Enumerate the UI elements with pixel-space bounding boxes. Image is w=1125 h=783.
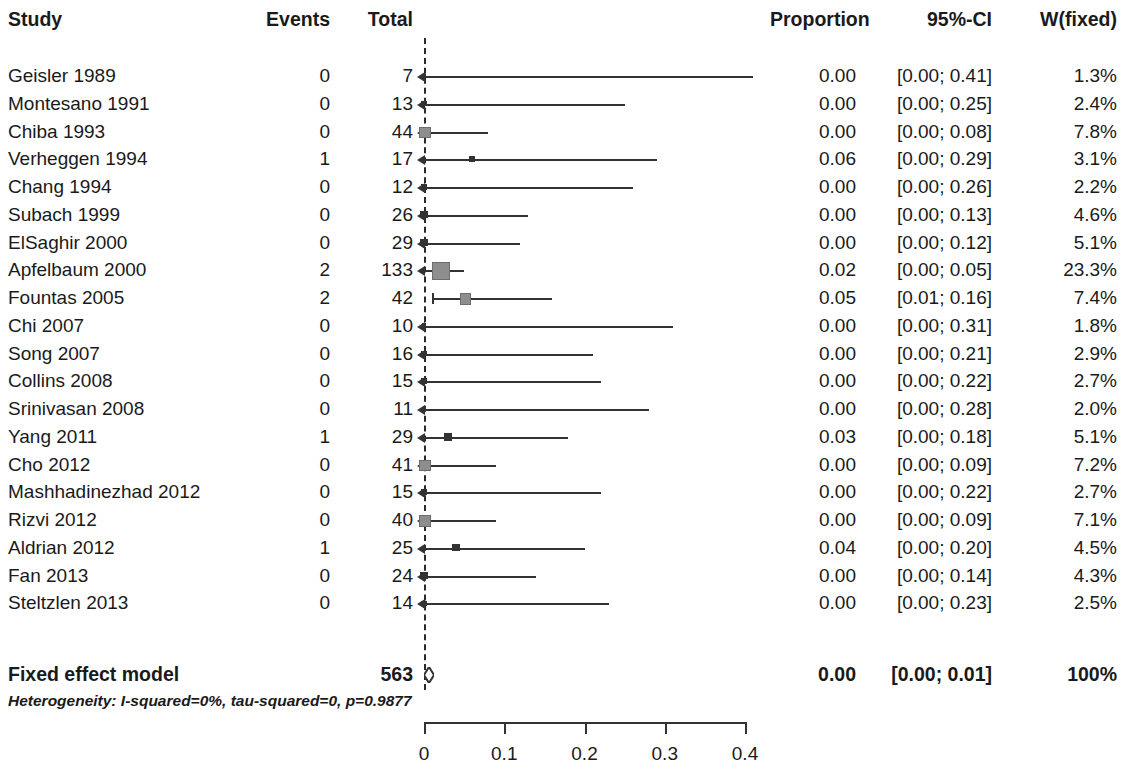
- row-study-name: Montesano 1991: [8, 94, 288, 113]
- point-estimate-marker: [421, 489, 427, 495]
- row-total: 24: [330, 566, 413, 585]
- row-study-name: Cho 2012: [8, 455, 288, 474]
- row-weight: 1.8%: [996, 316, 1117, 335]
- row-weight: 4.6%: [996, 205, 1117, 224]
- summary-proportion: 0.00: [770, 665, 856, 684]
- x-axis-tick: [585, 722, 587, 734]
- ci-left-arrow: [417, 322, 425, 332]
- column-header-events: Events: [250, 10, 330, 29]
- point-estimate-marker: [422, 74, 426, 78]
- ci-left-arrow: [417, 405, 425, 415]
- column-header-total: Total: [330, 10, 413, 29]
- row-ci: [0.00; 0.05]: [862, 260, 992, 279]
- x-axis-tick-label: 0.1: [464, 744, 544, 763]
- confidence-interval-line: [424, 243, 520, 245]
- row-ci: [0.00; 0.23]: [862, 593, 992, 612]
- row-proportion: 0.00: [770, 566, 856, 585]
- row-weight: 2.7%: [996, 482, 1117, 501]
- row-study-name: Apfelbaum 2000: [8, 260, 288, 279]
- row-ci: [0.00; 0.14]: [862, 566, 992, 585]
- x-axis-tick: [745, 722, 747, 734]
- ci-left-arrow: [417, 350, 425, 360]
- row-proportion: 0.00: [770, 205, 856, 224]
- row-proportion: 0.00: [770, 482, 856, 501]
- row-total: 29: [330, 233, 413, 252]
- row-total: 15: [330, 482, 413, 501]
- point-estimate-marker: [422, 323, 427, 328]
- row-study-name: Geisler 1989: [8, 66, 288, 85]
- heterogeneity-text: Heterogeneity: I-squared=0%, tau-squared…: [8, 692, 412, 710]
- row-proportion: 0.00: [770, 455, 856, 474]
- point-estimate-marker: [420, 239, 428, 247]
- row-proportion: 0.00: [770, 177, 856, 196]
- row-study-name: Fountas 2005: [8, 288, 288, 307]
- row-total: 17: [330, 149, 413, 168]
- point-estimate-marker: [432, 262, 450, 280]
- row-proportion: 0.03: [770, 427, 856, 446]
- row-total: 41: [330, 455, 413, 474]
- row-total: 26: [330, 205, 413, 224]
- zero-reference-line: [424, 38, 426, 690]
- confidence-interval-line: [424, 437, 568, 439]
- row-study-name: Mashhadinezhad 2012: [8, 482, 288, 501]
- row-weight: 7.4%: [996, 288, 1117, 307]
- x-axis-tick-label: 0.3: [625, 744, 705, 763]
- summary-label: Fixed effect model: [8, 665, 288, 684]
- row-study-name: Chang 1994: [8, 177, 288, 196]
- row-ci: [0.00; 0.09]: [862, 510, 992, 529]
- column-header-weight: W(fixed): [996, 10, 1117, 29]
- row-events: 0: [250, 205, 330, 224]
- row-events: 0: [250, 94, 330, 113]
- row-ci: [0.00; 0.31]: [862, 316, 992, 335]
- row-weight: 23.3%: [996, 260, 1117, 279]
- ci-left-arrow: [417, 544, 425, 554]
- row-events: 0: [250, 455, 330, 474]
- point-estimate-marker: [421, 601, 426, 606]
- row-study-name: Chiba 1993: [8, 122, 288, 141]
- row-weight: 2.2%: [996, 177, 1117, 196]
- row-events: 1: [250, 538, 330, 557]
- row-weight: 2.7%: [996, 371, 1117, 390]
- row-proportion: 0.00: [770, 233, 856, 252]
- column-header-study: Study: [8, 10, 288, 29]
- row-proportion: 0.00: [770, 399, 856, 418]
- point-estimate-marker: [419, 460, 430, 471]
- row-total: 40: [330, 510, 413, 529]
- ci-left-arrow: [417, 211, 425, 221]
- row-events: 0: [250, 177, 330, 196]
- point-estimate-marker: [420, 211, 427, 218]
- summary-weight: 100%: [996, 665, 1117, 684]
- row-weight: 1.3%: [996, 66, 1117, 85]
- row-study-name: Chi 2007: [8, 316, 288, 335]
- row-proportion: 0.00: [770, 593, 856, 612]
- row-total: 13: [330, 94, 413, 113]
- row-events: 0: [250, 344, 330, 363]
- confidence-interval-line: [424, 492, 601, 494]
- column-header-ci: 95%-CI: [862, 10, 992, 29]
- row-events: 2: [250, 260, 330, 279]
- row-proportion: 0.00: [770, 316, 856, 335]
- row-proportion: 0.02: [770, 260, 856, 279]
- row-events: 0: [250, 66, 330, 85]
- point-estimate-marker: [452, 544, 459, 551]
- x-axis-tick-label: 0.2: [545, 744, 625, 763]
- confidence-interval-line: [424, 576, 536, 578]
- x-axis-tick: [665, 722, 667, 734]
- point-estimate-marker: [420, 572, 427, 579]
- row-study-name: ElSaghir 2000: [8, 233, 288, 252]
- row-events: 2: [250, 288, 330, 307]
- row-weight: 4.5%: [996, 538, 1117, 557]
- row-events: 0: [250, 122, 330, 141]
- confidence-interval-line: [424, 548, 585, 550]
- row-total: 16: [330, 344, 413, 363]
- row-ci: [0.00; 0.26]: [862, 177, 992, 196]
- ci-left-arrow: [417, 488, 425, 498]
- confidence-interval-line: [424, 159, 657, 161]
- point-estimate-marker: [421, 101, 426, 106]
- row-proportion: 0.00: [770, 510, 856, 529]
- point-estimate-marker: [421, 378, 427, 384]
- row-total: 42: [330, 288, 413, 307]
- ci-left-arrow: [417, 72, 425, 82]
- ci-left-arrow: [417, 461, 425, 471]
- row-ci: [0.00; 0.21]: [862, 344, 992, 363]
